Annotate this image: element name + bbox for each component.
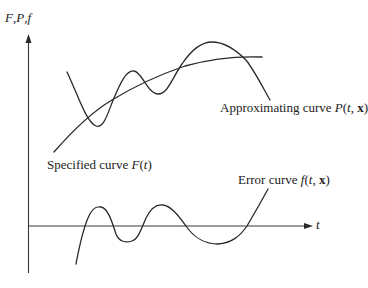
y-axis-arrow-icon (26, 34, 32, 43)
error-label-text: Error curve (238, 172, 301, 187)
approximating-label-symbol: P (335, 100, 343, 115)
approximating-curve-label: Approximating curve P(t, x) (220, 101, 368, 114)
specified-label-text: Specified curve (47, 157, 131, 172)
x-axis-label: t (316, 218, 320, 231)
error-curve-label: Error curve f(t, x) (238, 173, 330, 186)
x-axis-arrow-icon (304, 223, 313, 229)
paren-close: ) (325, 172, 329, 187)
y-label-f: f (27, 10, 31, 25)
paren-close: ) (364, 100, 368, 115)
y-label-P: P (16, 10, 24, 25)
y-label-F: F (5, 10, 13, 25)
y-axis-label: F,P,f (5, 11, 31, 24)
paren-close: ) (147, 157, 151, 172)
specified-curve-label: Specified curve F(t) (47, 158, 152, 171)
approximating-label-text: Approximating curve (220, 100, 335, 115)
